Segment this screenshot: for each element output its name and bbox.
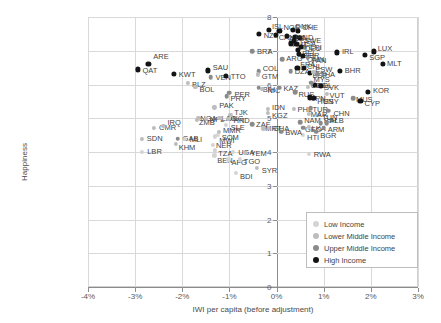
x-tick-label: 3%	[412, 292, 424, 301]
data-point-label: HTI	[307, 134, 319, 142]
x-tick-label: 2%	[365, 292, 377, 301]
data-point-label: MLT	[387, 60, 401, 68]
legend-item-label: High Income	[324, 256, 366, 265]
x-tick-label: -2%	[175, 292, 189, 301]
legend-item[interactable]: High Income	[313, 254, 411, 266]
data-point-label: LUX	[378, 45, 393, 53]
legend-marker-icon	[313, 221, 319, 227]
y-tick-mark	[273, 17, 277, 18]
data-point	[280, 57, 285, 62]
data-point-label: CYP	[364, 100, 379, 108]
legend-item[interactable]: Lower Middle Income	[313, 230, 411, 242]
y-axis-label: Happiness	[20, 143, 29, 181]
data-point-label: TJK	[234, 109, 247, 117]
y-tick-mark	[273, 186, 277, 187]
legend-item-label: Low Income	[324, 220, 364, 229]
scatter-chart: Happiness IWI per capita (before adjustm…	[0, 0, 441, 323]
data-point-label: BOL	[199, 86, 214, 94]
data-point-label: SAU	[213, 64, 228, 72]
y-tick-mark	[273, 220, 277, 221]
x-tick-label: -3%	[128, 292, 142, 301]
data-point-label: IRQ	[167, 119, 180, 127]
data-point-label: TTO	[231, 73, 246, 81]
gridline-horizontal	[88, 186, 418, 187]
data-point-label: ESW	[315, 66, 332, 74]
data-point-label: SYR	[262, 167, 277, 175]
legend-marker-icon	[313, 245, 319, 251]
data-point-label: BHR	[345, 67, 361, 75]
data-point-label: BWA	[285, 129, 302, 137]
data-point	[175, 136, 180, 141]
data-point	[351, 96, 356, 101]
legend-item[interactable]: Upper Middle Income	[313, 242, 411, 254]
data-point-label: BDI	[240, 173, 253, 181]
x-tick-label: 1%	[318, 292, 330, 301]
data-point-label: SDN	[147, 135, 163, 143]
data-point	[279, 129, 284, 134]
x-tick-label: 0%	[271, 292, 283, 301]
gridline-horizontal	[88, 17, 418, 18]
data-point	[298, 120, 303, 125]
data-point-label: BGR	[320, 132, 336, 140]
x-tick-label: -4%	[81, 292, 95, 301]
y-tick-mark	[273, 51, 277, 52]
data-point-label: IRL	[342, 48, 354, 56]
y-tick-mark	[273, 253, 277, 254]
legend-item-label: Upper Middle Income	[324, 244, 395, 253]
legend-item-label: Lower Middle Income	[324, 232, 395, 241]
data-point	[305, 55, 310, 60]
data-point-label: QAT	[143, 67, 158, 75]
gridline-horizontal	[88, 85, 418, 86]
data-point-label: LBR	[147, 148, 162, 156]
x-tick-label: -1%	[222, 292, 236, 301]
gridline-vertical	[418, 17, 419, 287]
data-point-label: FIN	[296, 34, 308, 42]
data-point-label: YEM	[250, 150, 266, 158]
legend-marker-icon	[313, 233, 319, 239]
data-point-label: MYS	[313, 76, 329, 84]
legend-marker-icon	[313, 257, 319, 263]
legend: Low IncomeLower Middle IncomeUpper Middl…	[306, 212, 418, 268]
data-point-label: BEN	[217, 157, 232, 165]
data-point-label: KOR	[373, 87, 389, 95]
data-point	[277, 86, 282, 91]
y-tick-mark	[273, 85, 277, 86]
y-tick-mark	[273, 152, 277, 153]
data-point	[250, 122, 255, 127]
data-point-label: TGO	[244, 158, 260, 166]
x-axis-label: IWI per capita (before adjustment)	[88, 305, 418, 314]
data-point-label: PAK	[219, 102, 233, 110]
data-point	[321, 125, 326, 130]
y-tick-mark	[273, 118, 277, 119]
gridline-horizontal	[88, 118, 418, 119]
data-point-label: CHE	[302, 24, 318, 32]
data-point	[208, 75, 213, 80]
data-point	[293, 90, 298, 95]
data-point-label: KHM	[179, 144, 196, 152]
data-point	[288, 69, 293, 74]
data-point-label: RWA	[314, 151, 331, 159]
data-point-label: SGP	[369, 54, 385, 62]
data-point	[224, 94, 229, 99]
legend-item[interactable]: Low Income	[313, 218, 411, 230]
x-axis-line	[88, 287, 418, 288]
data-point	[250, 49, 255, 54]
data-point-label: ARE	[153, 53, 168, 61]
data-point-label: KWT	[179, 71, 196, 79]
